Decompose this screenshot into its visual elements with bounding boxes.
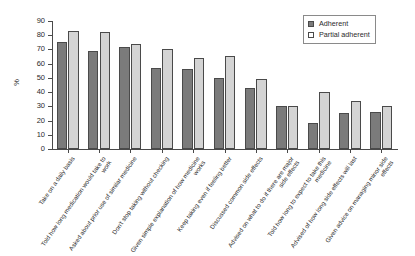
x-tick-mark	[130, 150, 131, 153]
x-tick-mark	[162, 150, 163, 153]
x-tick-mark	[287, 150, 288, 153]
bar-partial-adherent	[194, 58, 204, 149]
bar-partial-adherent	[225, 56, 235, 149]
bar-partial-adherent	[162, 49, 172, 149]
bar-adherent	[151, 68, 161, 149]
bar-adherent	[119, 47, 129, 149]
x-tick-mark	[350, 150, 351, 153]
bar-adherent	[245, 88, 255, 149]
x-tick-mark	[381, 150, 382, 153]
x-tick-mark	[319, 150, 320, 153]
legend-swatch-partial-adherent-icon	[308, 32, 314, 38]
legend-item-partial-adherent: Partial adherent	[308, 29, 370, 40]
x-tick-mark	[99, 150, 100, 153]
bar-adherent	[88, 51, 98, 149]
bar-partial-adherent	[288, 106, 298, 149]
y-tick-label: 70	[22, 45, 45, 53]
y-tick-label: 60	[22, 60, 45, 68]
bar-partial-adherent	[68, 31, 78, 149]
chart-legend: Adherent Partial adherent	[303, 15, 376, 44]
bar-partial-adherent	[382, 106, 392, 149]
y-tick-label: 90	[22, 17, 45, 25]
y-tick-label: 20	[22, 117, 45, 125]
bar-adherent	[308, 123, 318, 149]
y-tick-label: 50	[22, 74, 45, 82]
y-axis-title: %	[12, 79, 21, 86]
bar-adherent	[339, 113, 349, 149]
y-tick-label: 40	[22, 88, 45, 96]
bar-adherent	[370, 112, 380, 149]
bar-partial-adherent	[351, 101, 361, 149]
y-tick-label: 0	[22, 145, 45, 153]
x-tick-mark	[256, 150, 257, 153]
legend-item-adherent: Adherent	[308, 18, 370, 29]
bar-adherent	[276, 106, 286, 149]
legend-label-partial-adherent: Partial adherent	[319, 31, 370, 38]
x-tick-mark	[225, 150, 226, 153]
bar-partial-adherent	[319, 92, 329, 149]
y-tick-label: 10	[22, 131, 45, 139]
legend-swatch-adherent-icon	[308, 21, 314, 27]
bar-adherent	[214, 78, 224, 149]
legend-label-adherent: Adherent	[319, 20, 348, 27]
bar-adherent	[182, 69, 192, 149]
y-tick-mark	[48, 149, 52, 150]
bar-adherent	[57, 42, 67, 149]
bar-partial-adherent	[131, 44, 141, 149]
y-tick-label: 80	[22, 31, 45, 39]
y-tick-label: 30	[22, 102, 45, 110]
bar-partial-adherent	[256, 79, 266, 149]
x-tick-mark	[68, 150, 69, 153]
x-tick-mark	[193, 150, 194, 153]
bar-partial-adherent	[100, 32, 110, 149]
